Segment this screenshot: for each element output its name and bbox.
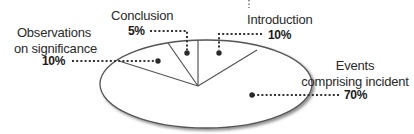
pie-chart: Observations on significance 10% Conclus… [0, 0, 414, 134]
pct-conclusion: 5% [128, 24, 145, 38]
pct-observations: 10% [42, 54, 65, 68]
label-events-line1: Events [300, 58, 410, 74]
pie-ellipse [100, 40, 312, 128]
label-observations-line1: Observations [14, 25, 94, 41]
pct-introduction: 10% [268, 28, 291, 42]
dot-conclusion [184, 50, 189, 55]
label-events: Events comprising incident [300, 58, 410, 90]
dot-observations [155, 58, 160, 63]
label-conclusion: Conclusion [111, 8, 173, 24]
label-observations: Observations on significance [14, 25, 94, 57]
label-introduction: Introduction [247, 12, 313, 28]
dot-events [249, 92, 254, 97]
pct-events: 70% [344, 88, 367, 102]
dot-introduction [216, 50, 221, 55]
